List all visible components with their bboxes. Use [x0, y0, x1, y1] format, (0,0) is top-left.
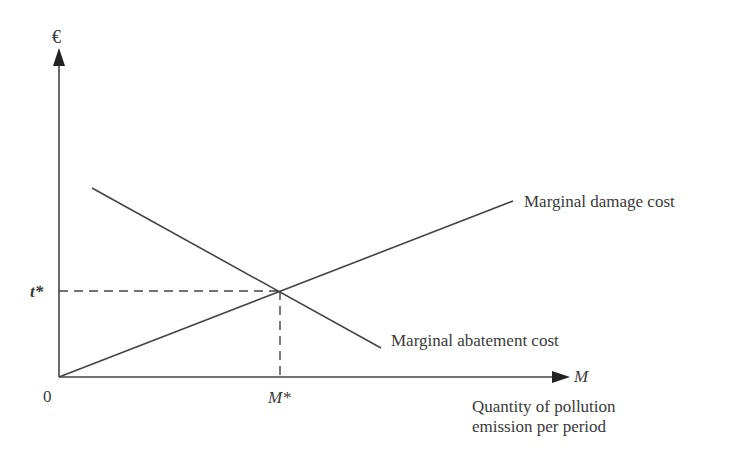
marginal-damage-label: Marginal damage cost [524, 193, 675, 210]
marginal-abatement-curve [92, 188, 381, 348]
x-axis-arrow-icon [552, 371, 570, 383]
diagram-canvas [0, 0, 742, 470]
marginal-abatement-label: Marginal abatement cost [391, 332, 559, 349]
m-star-label: M* [268, 389, 291, 406]
t-star-label: t* [30, 283, 43, 300]
marginal-damage-curve [59, 201, 513, 377]
y-axis-arrow-icon [53, 48, 65, 66]
y-axis-label: € [52, 28, 61, 46]
origin-label: 0 [43, 388, 52, 405]
x-axis-label: M [574, 368, 588, 385]
x-description-line2: emission per period [472, 418, 606, 435]
x-description-line1: Quantity of pollution [472, 398, 616, 415]
